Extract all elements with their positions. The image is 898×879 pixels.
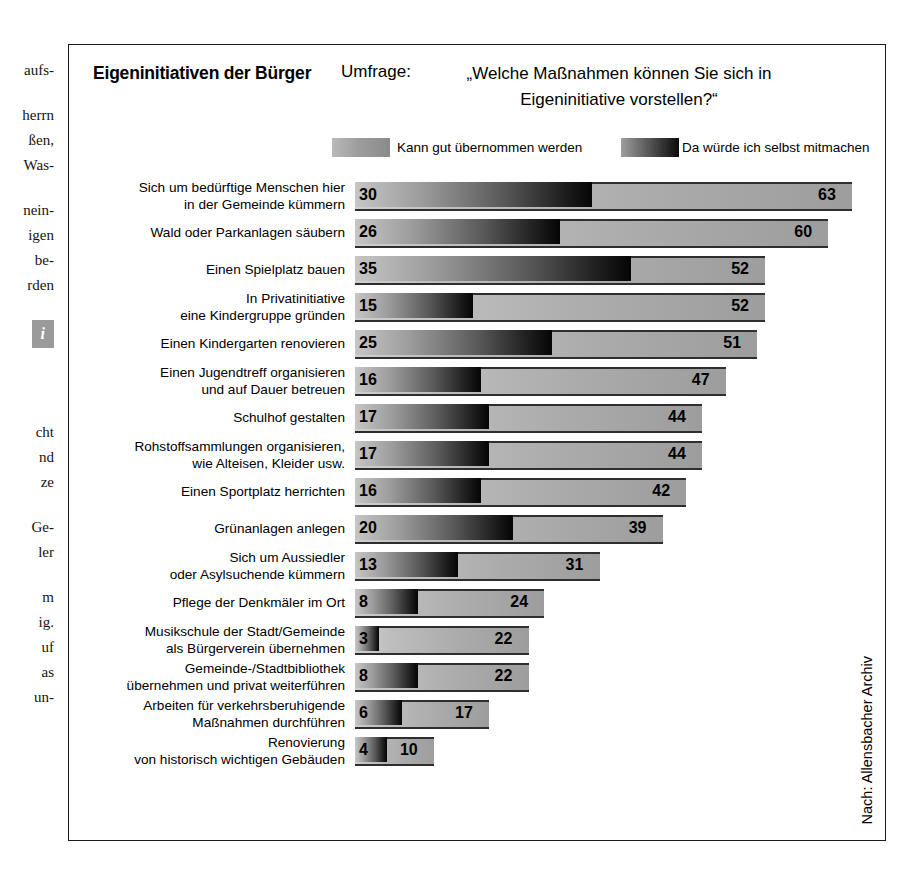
legend-swatch-dark-icon — [621, 138, 679, 157]
article-text-fragment: Was- — [0, 153, 54, 178]
article-text-fragment: nd — [0, 445, 54, 470]
bar-value-outer: 22 — [495, 626, 513, 651]
chart-container: Eigeninitiativen der Bürger Umfrage: „We… — [68, 44, 886, 841]
bar-area: 1552 — [355, 293, 885, 322]
legend-label: Kann gut übernommen werden — [397, 140, 582, 155]
bar-category-label: Arbeiten für verkehrsberuhigende Maßnahm… — [69, 698, 355, 731]
bar-value-inner: 6 — [359, 700, 368, 725]
article-paragraph: aufs- — [0, 58, 54, 83]
article-text-fragment: ze — [0, 470, 54, 495]
chart-rows: Sich um bedürftige Menschen hier in der … — [69, 178, 885, 770]
chart-row: Einen Spielplatz bauen3552 — [69, 252, 885, 289]
bar-value-inner: 16 — [359, 367, 377, 392]
bar-area: 1642 — [355, 478, 885, 507]
article-text-fragment: un- — [0, 685, 54, 710]
bar-value-inner: 17 — [359, 441, 377, 466]
bar-area: 2551 — [355, 330, 885, 359]
article-text-fragment: aufs- — [0, 58, 54, 83]
article-text-fragment: cht — [0, 420, 54, 445]
legend-item-kann-gut-uebernommen: Kann gut übernommen werden — [332, 137, 582, 157]
bar-category-label: Grünanlagen anlegen — [69, 521, 355, 538]
article-text-fragment: ßen, — [0, 128, 54, 153]
article-paragraph: m ig. uf as un- — [0, 585, 54, 710]
article-text-fragment: Ge- — [0, 515, 54, 540]
bar-area: 824 — [355, 589, 885, 618]
bar-area: 3552 — [355, 256, 885, 285]
legend-swatch-light-icon — [332, 138, 390, 157]
chart-row: Renovierung von historisch wichtigen Geb… — [69, 733, 885, 770]
chart-row: In Privatinitiative eine Kindergruppe gr… — [69, 289, 885, 326]
bar-value-inner: 25 — [359, 330, 377, 355]
bar-category-label: Rohstoffsammlungen organisieren, wie Alt… — [69, 439, 355, 472]
bar-value-inner: 35 — [359, 256, 377, 281]
chart-row: Arbeiten für verkehrsberuhigende Maßnahm… — [69, 696, 885, 733]
bar-area: 1647 — [355, 367, 885, 396]
chart-row: Sich um Aussiedler oder Asylsuchende küm… — [69, 548, 885, 585]
bar-category-label: Sich um Aussiedler oder Asylsuchende küm… — [69, 550, 355, 583]
survey-question: „Welche Maßnahmen können Sie sich in Eig… — [423, 61, 815, 113]
bar-category-label: Pflege der Denkmäler im Ort — [69, 595, 355, 612]
bar-value-inner: 16 — [359, 478, 377, 503]
chart-row: Wald oder Parkanlagen säubern2660 — [69, 215, 885, 252]
bar-value-outer: 63 — [818, 182, 836, 207]
bar-category-label: Einen Spielplatz bauen — [69, 262, 355, 279]
bar-category-label: In Privatinitiative eine Kindergruppe gr… — [69, 291, 355, 324]
chart-row: Einen Sportplatz herrichten1642 — [69, 474, 885, 511]
legend-item-selbst-mitmachen: Da würde ich selbst mitmachen — [621, 137, 870, 157]
article-text-fragment: be- — [0, 248, 54, 273]
bar-value-inner: 30 — [359, 182, 377, 207]
chart-row: Grünanlagen anlegen2039 — [69, 511, 885, 548]
article-paragraph: nein- igen be- rden — [0, 198, 54, 298]
bar-value-inner: 3 — [359, 626, 368, 651]
bar-area: 2039 — [355, 515, 885, 544]
bar-value-inner: 4 — [359, 737, 368, 762]
bar-area: 2660 — [355, 219, 885, 248]
article-text-fragment: nein- — [0, 198, 54, 223]
bar-category-label: Renovierung von historisch wichtigen Geb… — [69, 735, 355, 768]
article-text-fragment: ig. — [0, 610, 54, 635]
bar-value-outer: 10 — [400, 737, 418, 762]
chart-header: Eigeninitiativen der Bürger Umfrage: „We… — [69, 45, 885, 119]
bar-category-label: Musikschule der Stadt/Gemeinde als Bürge… — [69, 624, 355, 657]
chart-row: Einen Jugendtreff organisieren und auf D… — [69, 363, 885, 400]
article-text-fragment: igen — [0, 223, 54, 248]
article-text-fragment: herrn — [0, 103, 54, 128]
bar-value-outer: 51 — [723, 330, 741, 355]
bar-value-inner: 13 — [359, 552, 377, 577]
bar-value-outer: 24 — [510, 589, 528, 614]
bar-value-outer: 42 — [652, 478, 670, 503]
bar-value-outer: 60 — [794, 219, 812, 244]
chart-row: Schulhof gestalten1744 — [69, 400, 885, 437]
bar-category-label: Einen Kindergarten renovieren — [69, 336, 355, 353]
bar-category-label: Sich um bedürftige Menschen hier in der … — [69, 180, 355, 213]
chart-row: Musikschule der Stadt/Gemeinde als Bürge… — [69, 622, 885, 659]
bar-value-outer: 44 — [668, 404, 686, 429]
article-text-fragment: ler — [0, 540, 54, 565]
bar-value-outer: 44 — [668, 441, 686, 466]
bar-area: 1331 — [355, 552, 885, 581]
chart-row: Rohstoffsammlungen organisieren, wie Alt… — [69, 437, 885, 474]
bar-value-inner: 26 — [359, 219, 377, 244]
bar-value-outer: 31 — [566, 552, 584, 577]
bar-value-outer: 17 — [455, 700, 473, 725]
chart-row: Einen Kindergarten renovieren2551 — [69, 326, 885, 363]
bar-segment-selbst-mitmachen — [355, 330, 552, 355]
chart-legend: Kann gut übernommen werden Da würde ich … — [69, 137, 885, 159]
article-paragraph: herrn ßen, Was- — [0, 103, 54, 178]
page-title: Eigeninitiativen der Bürger — [93, 63, 311, 84]
bar-value-outer: 52 — [731, 256, 749, 281]
bar-value-inner: 15 — [359, 293, 377, 318]
bar-value-outer: 52 — [731, 293, 749, 318]
survey-label: Umfrage: — [341, 62, 411, 82]
bar-area: 822 — [355, 663, 885, 692]
legend-label: Da würde ich selbst mitmachen — [682, 140, 870, 155]
bar-value-inner: 17 — [359, 404, 377, 429]
bar-value-inner: 8 — [359, 589, 368, 614]
bar-area: 1744 — [355, 441, 885, 470]
chart-row: Gemeinde-/Stadtbibliothek übernehmen und… — [69, 659, 885, 696]
article-text-column: aufs- herrn ßen, Was- nein- igen be- rde… — [0, 0, 58, 879]
bar-value-outer: 47 — [692, 367, 710, 392]
article-text-fragment: m — [0, 585, 54, 610]
bar-category-label: Wald oder Parkanlagen säubern — [69, 225, 355, 242]
article-text-fragment: uf — [0, 635, 54, 660]
